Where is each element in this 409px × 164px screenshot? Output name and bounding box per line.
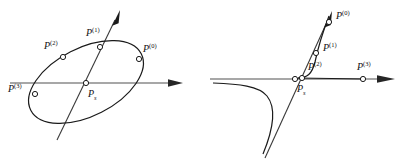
marker-p0[interactable] xyxy=(326,19,331,24)
label-p2: P(2) xyxy=(44,41,58,51)
label-p3: P(3) xyxy=(357,62,371,72)
marker-p2[interactable] xyxy=(60,54,65,59)
ellipse-diagram-svg xyxy=(0,0,205,164)
marker-p0[interactable] xyxy=(136,56,141,61)
marker-p3[interactable] xyxy=(360,76,365,81)
marker-p2[interactable] xyxy=(299,75,304,80)
marker-p1[interactable] xyxy=(313,50,318,55)
figure-container: P(0) P(1) P(2) P(3) Ps xyxy=(0,0,409,164)
marker-ps[interactable] xyxy=(83,80,88,85)
marker-p3[interactable] xyxy=(32,91,37,96)
marker-ps[interactable] xyxy=(292,76,297,81)
label-p0: P(0) xyxy=(336,11,350,21)
label-ps: Ps xyxy=(88,89,97,99)
marker-p1[interactable] xyxy=(97,44,102,49)
label-p0: P(0) xyxy=(143,44,157,54)
ellipse-panel: P(0) P(1) P(2) P(3) Ps xyxy=(0,0,205,164)
hyperbola-lower-branch xyxy=(213,83,273,154)
label-ps: Ps xyxy=(297,84,306,94)
point-markers xyxy=(32,44,141,96)
label-p2: P(2) xyxy=(308,62,322,72)
label-p1: P(1) xyxy=(86,28,100,38)
label-p1: P(1) xyxy=(323,43,337,53)
hyperbola-panel: P(0) P(1) P(2) P(3) Ps xyxy=(205,0,409,164)
label-p3: P(3) xyxy=(8,84,22,94)
hyperbola-diagram-svg xyxy=(205,0,409,164)
